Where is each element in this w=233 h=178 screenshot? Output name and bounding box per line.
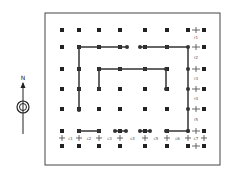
grid-marker [186, 28, 190, 32]
path-node [138, 45, 142, 49]
grid-markers [60, 28, 206, 148]
path-node [97, 67, 101, 71]
right-label: r5 [194, 117, 199, 122]
grid-marker [118, 28, 122, 32]
right-label: r3 [194, 76, 199, 81]
path-node [124, 129, 128, 133]
path-node [138, 129, 142, 133]
grid-marker [77, 28, 81, 32]
path-node [125, 45, 129, 49]
bottom-label: c7 [194, 136, 199, 141]
path-node [118, 45, 122, 49]
grid-marker [60, 144, 64, 148]
grid-marker [60, 28, 64, 32]
path-node [118, 67, 122, 71]
path-node [77, 129, 81, 133]
path-node [77, 108, 81, 112]
grid-marker [186, 144, 190, 148]
path-node [186, 107, 190, 111]
grid-marker [143, 107, 147, 111]
path-node [186, 45, 190, 49]
grid-marker [118, 87, 122, 91]
grid-marker [60, 67, 64, 71]
bottom-label: c1 [68, 136, 73, 141]
grid-marker [60, 87, 64, 91]
grid-marker [202, 129, 206, 133]
inner-path [99, 69, 166, 89]
path-node [186, 67, 190, 71]
grid-marker [97, 107, 101, 111]
grid-marker [97, 144, 101, 148]
grid-marker [202, 67, 206, 71]
paths [77, 45, 190, 133]
path-node [97, 87, 101, 91]
grid-marker [60, 45, 64, 49]
diagram: N r1r2r3r4r5c1c2c3c4c5c6c7 [0, 0, 233, 178]
path-node [186, 129, 190, 133]
path-node [143, 45, 147, 49]
grid-marker [165, 28, 169, 32]
right-label: r4 [194, 96, 199, 101]
grid-marker [143, 144, 147, 148]
grid-marker [165, 144, 169, 148]
path-node [165, 45, 169, 49]
grid-marker [202, 107, 206, 111]
compass: N [17, 74, 29, 134]
bottom-label: c5 [154, 136, 159, 141]
bottom-label: c2 [87, 136, 92, 141]
grid-marker [202, 28, 206, 32]
grid-marker [202, 144, 206, 148]
grid-marker [60, 107, 64, 111]
path-node [164, 87, 168, 91]
path-node [77, 45, 81, 49]
path-node [164, 129, 168, 133]
path-node [113, 129, 117, 133]
grid-marker [143, 87, 147, 91]
bottom-label: c6 [175, 136, 180, 141]
grid-marker [202, 45, 206, 49]
grid-marker [60, 129, 64, 133]
path-node [148, 129, 152, 133]
path-node [186, 87, 190, 91]
right-label: r2 [194, 55, 199, 60]
path-node [77, 87, 81, 91]
north-arrow-icon [21, 82, 26, 88]
grid-marker [202, 87, 206, 91]
right-label: r1 [194, 35, 199, 40]
path-node [164, 67, 168, 71]
grid-marker [77, 144, 81, 148]
grid-marker [118, 144, 122, 148]
grid-marker [118, 107, 122, 111]
bottom-label: c3 [107, 136, 112, 141]
path-node [97, 129, 101, 133]
path-node [97, 45, 101, 49]
bottom-label: c4 [130, 136, 135, 141]
grid-marker [165, 107, 169, 111]
grid-marker [143, 28, 147, 32]
grid-marker [97, 28, 101, 32]
outer-path-left [79, 47, 127, 110]
path-node [143, 67, 147, 71]
north-label: N [21, 74, 26, 81]
path-node [77, 67, 81, 71]
